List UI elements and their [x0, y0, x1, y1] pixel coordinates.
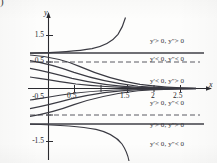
region-label-above-upper-equilibrium: y'> 0, y"> 0 [150, 37, 184, 45]
region-label-lower-concave-down: y'> 0, y"< 0 [150, 99, 184, 107]
x-tick-label-1_5: 1.5 [120, 91, 129, 100]
figure-container: ) [0, 0, 217, 163]
y-tick-label-neg0_5: -0.5 [21, 92, 44, 101]
curve-lower-divergent [30, 124, 129, 161]
region-label-below-lower-equilibrium: y'< 0, y"< 0 [150, 140, 184, 148]
region-label-upper-concave-down: y'< 0, y"< 0 [150, 55, 184, 63]
region-label-lower-concave-up: y'> 0, y"> 0 [150, 121, 184, 129]
y-tick-label-0_5: 0.5 [26, 56, 44, 65]
x-axis-label: x [209, 80, 213, 89]
x-tick-label-0_5: 0.5 [67, 91, 76, 100]
y-tick-label-1_5: 1.5 [26, 30, 44, 39]
curve-upper-divergent [30, 18, 126, 54]
y-axis-label: y [44, 8, 48, 17]
y-tick-label-neg1_5: -1.5 [21, 136, 44, 145]
region-label-upper-concave-up: y'< 0, y"> 0 [150, 77, 184, 85]
